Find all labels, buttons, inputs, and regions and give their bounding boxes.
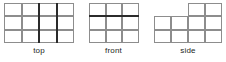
view-side-label: side (152, 46, 224, 56)
orthographic-views-figure: top front side (0, 0, 226, 62)
grid-cell (39, 16, 57, 29)
grid-cell (122, 16, 139, 29)
grid-cell (22, 16, 40, 29)
grid-cell (205, 3, 222, 16)
thick-divider-line (38, 3, 40, 43)
grid-cell (89, 30, 106, 43)
grid-cell (188, 3, 205, 16)
grid-cell (22, 30, 40, 43)
grid-cell (171, 30, 188, 43)
top-grid (4, 3, 74, 43)
view-front-label: front (85, 46, 142, 56)
view-top-label: top (2, 46, 76, 56)
grid-cell (122, 3, 139, 16)
grid-cell (171, 16, 188, 29)
grid-cell (154, 30, 171, 43)
grid-cell (122, 30, 139, 43)
grid-cell (205, 16, 222, 29)
front-grid (89, 3, 139, 43)
grid-cell (39, 30, 57, 43)
grid-cell (188, 16, 205, 29)
grid-cell (205, 30, 222, 43)
grid-cell (106, 3, 123, 16)
grid-cell (188, 30, 205, 43)
grid-cell (89, 3, 106, 16)
grid-cell (22, 3, 40, 16)
grid-cell (39, 3, 57, 16)
grid-cell (89, 16, 106, 29)
grid-cell (106, 30, 123, 43)
thick-divider-line (56, 3, 58, 43)
grid-cell (4, 3, 22, 16)
grid-cell (57, 16, 75, 29)
grid-cell (4, 16, 22, 29)
grid-cell (57, 3, 75, 16)
side-grid (154, 3, 222, 43)
grid-cell (4, 30, 22, 43)
thick-divider-line (89, 15, 139, 17)
grid-cell (154, 16, 171, 29)
grid-cell (106, 16, 123, 29)
grid-cell (57, 30, 75, 43)
